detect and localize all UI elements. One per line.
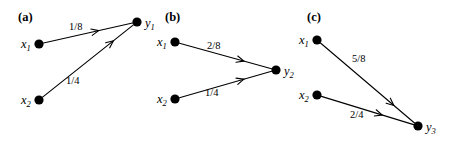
- node-label-subscript: 3: [432, 126, 436, 136]
- node-label-subscript: 1: [151, 22, 155, 32]
- node-label-base: y: [426, 120, 432, 134]
- edge-weight-label: 1/4: [205, 88, 218, 99]
- edge-line: [179, 71, 271, 97]
- edge-a-x1-to-y1: [43, 23, 132, 43]
- node-label-c-x2: x2: [299, 89, 309, 102]
- node-label-subscript: 2: [290, 70, 294, 80]
- node-dot-a-y1: [132, 17, 141, 26]
- node-dot-c-x2: [312, 90, 321, 99]
- node-label-base: x: [157, 92, 163, 106]
- panel-caption-a: (a): [18, 11, 33, 24]
- edge-weight-label: 1/4: [66, 76, 79, 87]
- edge-weight-label: 2/4: [350, 110, 363, 121]
- node-label-base: y: [284, 64, 290, 78]
- edge-a-x2-to-y1: [43, 25, 134, 97]
- edge-line: [179, 43, 271, 69]
- node-label-base: x: [157, 35, 163, 49]
- node-label-a-x2: x2: [21, 94, 31, 107]
- node-label-a-x1: x1: [21, 38, 31, 51]
- node-label-subscript: 1: [27, 43, 31, 53]
- node-label-base: x: [21, 37, 27, 51]
- edge-line: [43, 25, 134, 97]
- edge-weight-label: 1/8: [69, 22, 82, 33]
- node-dot-c-y3: [413, 121, 422, 130]
- node-dot-a-x1: [34, 39, 43, 48]
- edge-line: [43, 23, 132, 43]
- node-label-c-x1: x1: [299, 34, 309, 47]
- edge-weight-label: 2/8: [207, 41, 220, 52]
- node-label-base: x: [299, 88, 305, 102]
- node-label-c-y3: y3: [426, 121, 436, 134]
- panel-caption-b: (b): [165, 11, 180, 24]
- node-label-subscript: 2: [27, 99, 31, 109]
- node-dot-b-y2: [271, 65, 280, 74]
- node-dot-a-x2: [34, 95, 43, 104]
- bipartite-graph-figure: (a)1/81/4x1x2y1(b)2/81/4x1x2y2(c)5/82/4x…: [0, 0, 459, 144]
- panel-caption-c: (c): [307, 11, 321, 24]
- node-label-subscript: 1: [163, 41, 167, 51]
- node-dot-b-x2: [170, 94, 179, 103]
- node-label-a-y1: y1: [145, 17, 155, 30]
- node-label-b-x1: x1: [157, 36, 167, 49]
- node-label-b-x2: x2: [157, 93, 167, 106]
- node-label-base: y: [145, 16, 151, 30]
- edge-b-x2-to-y2: [179, 71, 271, 97]
- node-dot-b-x1: [170, 37, 179, 46]
- node-label-subscript: 2: [305, 94, 309, 104]
- edge-weight-label: 5/8: [352, 54, 365, 65]
- node-label-base: x: [21, 93, 27, 107]
- edge-b-x1-to-y2: [179, 43, 271, 69]
- node-label-subscript: 1: [305, 39, 309, 49]
- node-label-subscript: 2: [163, 98, 167, 108]
- node-label-base: x: [299, 33, 305, 47]
- node-dot-c-x1: [312, 35, 321, 44]
- node-label-b-y2: y2: [284, 65, 294, 78]
